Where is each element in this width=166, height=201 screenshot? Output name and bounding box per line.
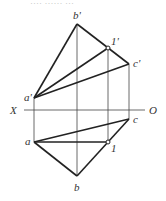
label-1: 1 — [111, 142, 117, 154]
faint-header-text: ···· ······ ··· — [30, 0, 74, 8]
label-b: b — [74, 181, 80, 193]
projection-diagram: ···· ······ ··· X O b' 1' c' a' c a 1 b — [0, 0, 166, 201]
edge-b-c — [77, 119, 129, 176]
edge-b-prime-c-prime — [77, 24, 129, 64]
point-1-marker — [106, 140, 110, 144]
label-c-prime: c' — [133, 57, 141, 69]
edge-a-prime-b-prime — [34, 24, 77, 98]
line-a-prime-1-prime — [34, 48, 108, 98]
point-1-prime-marker — [106, 46, 110, 50]
label-a: a — [25, 135, 31, 147]
label-b-prime: b' — [73, 9, 82, 21]
edge-a-c — [34, 119, 129, 142]
edge-a-prime-c-prime — [34, 64, 129, 98]
axis-label-x: X — [9, 104, 18, 116]
label-c: c — [133, 113, 138, 125]
edge-a-b — [34, 142, 77, 176]
axis-label-o: O — [149, 104, 157, 116]
label-a-prime: a' — [24, 91, 33, 103]
label-1-prime: 1' — [111, 35, 120, 47]
